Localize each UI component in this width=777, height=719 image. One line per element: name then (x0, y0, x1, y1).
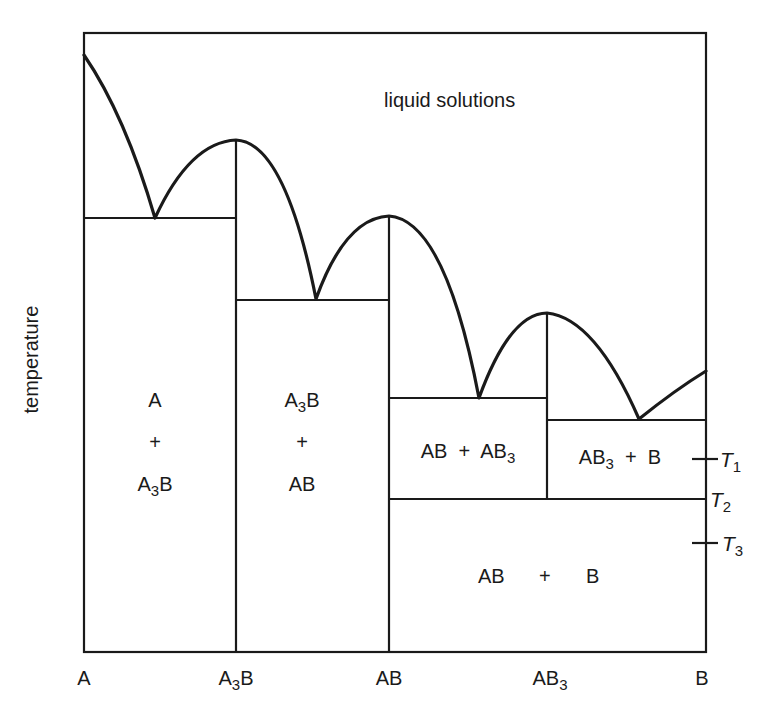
x-label-ab3: AB3 (532, 668, 567, 688)
x-label-ab: AB (376, 668, 403, 688)
region-a3b-ab-line3: AB (289, 474, 316, 494)
plot-frame (84, 33, 706, 652)
liquid-region-label: liquid solutions (384, 90, 515, 110)
region-a3b-ab-plus: + (296, 432, 308, 452)
region-a3b-ab-line1: A3B (284, 390, 319, 410)
region-ab-ab3: AB + AB3 (421, 441, 516, 461)
region-ab-b-right: B (586, 566, 599, 586)
t2-label: T2 (710, 489, 731, 510)
region-a-a3b-line3: A3B (137, 474, 172, 494)
t1-label: T1 (720, 449, 741, 470)
t3-label: T3 (722, 533, 743, 554)
region-a-a3b-line1: A (148, 390, 161, 410)
x-label-a3b: A3B (218, 668, 253, 688)
x-label-b: B (695, 668, 708, 688)
region-ab-b-left: AB (478, 566, 505, 586)
region-ab3-b: AB3 + B (579, 447, 661, 467)
y-axis-label: temperature (20, 306, 43, 414)
region-ab-b-plus: + (539, 566, 551, 586)
region-a-a3b-plus: + (149, 432, 161, 452)
x-label-a: A (77, 668, 90, 688)
